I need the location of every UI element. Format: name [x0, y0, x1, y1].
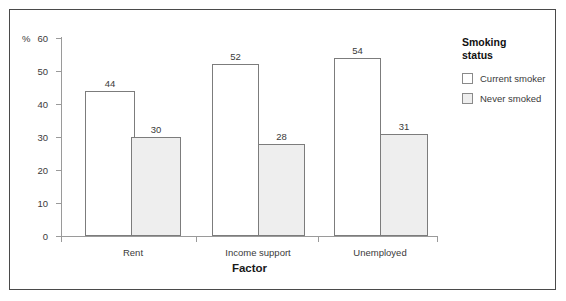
bar-value-label: 54 — [352, 45, 363, 56]
y-tick-10: 10 — [56, 203, 61, 204]
y-tick-label-20: 20 — [37, 165, 48, 176]
x-category-label-rent: Rent — [123, 247, 143, 258]
y-tick-label-10: 10 — [37, 198, 48, 209]
bar-income-support-never-smoked: 28 — [258, 144, 305, 236]
bar-value-label: 31 — [399, 121, 410, 132]
legend-swatch-icon-never-smoked — [462, 93, 473, 104]
bar-value-label: 52 — [230, 51, 241, 62]
y-axis-unit-label: % — [22, 33, 30, 44]
legend-swatch-icon-current-smoker — [462, 73, 473, 84]
legend-item-current-smoker[interactable]: Current smoker — [462, 73, 554, 84]
x-tick-group-1 — [196, 236, 197, 242]
bar-unemployed-never-smoked: 31 — [380, 134, 428, 236]
x-tick-end — [437, 236, 438, 242]
legend-item-never-smoked[interactable]: Never smoked — [462, 93, 554, 104]
legend-label-current-smoker: Current smoker — [480, 73, 545, 84]
legend-items: Current smoker Never smoked — [462, 73, 554, 104]
y-tick-40: 40 — [56, 104, 61, 105]
chart-figure: % 60 50 40 30 20 10 0 44 30 — [0, 0, 566, 301]
bar-rent-current-smoker: 44 — [85, 91, 135, 236]
x-tick-start — [61, 236, 62, 242]
y-tick-50: 50 — [56, 71, 61, 72]
legend-title-line-1: Smoking — [462, 36, 524, 49]
x-category-label-income-support: Income support — [225, 247, 290, 258]
legend-title: Smoking status — [462, 36, 524, 62]
x-axis-title: Factor — [61, 262, 438, 274]
y-tick-60: 60 — [56, 38, 61, 39]
y-tick-20: 20 — [56, 170, 61, 171]
y-tick-30: 30 — [56, 137, 61, 138]
y-tick-label-30: 30 — [37, 132, 48, 143]
legend: Smoking status Current smoker Never smok… — [462, 36, 554, 113]
y-tick-label-0: 0 — [43, 231, 48, 242]
bar-income-support-current-smoker: 52 — [212, 64, 259, 236]
x-category-label-unemployed: Unemployed — [353, 247, 406, 258]
y-tick-label-60: 60 — [37, 33, 48, 44]
legend-label-never-smoked: Never smoked — [480, 93, 541, 104]
bar-rent-never-smoked: 30 — [131, 137, 181, 236]
y-tick-label-40: 40 — [37, 99, 48, 110]
legend-title-line-2: status — [462, 49, 524, 62]
bar-value-label: 44 — [105, 78, 116, 89]
bar-unemployed-current-smoker: 54 — [334, 58, 381, 236]
x-tick-group-2 — [318, 236, 319, 242]
y-tick-label-50: 50 — [37, 66, 48, 77]
bar-value-label: 28 — [276, 131, 287, 142]
plot-area: 60 50 40 30 20 10 0 44 30 52 28 — [61, 38, 438, 236]
x-axis-line — [61, 236, 438, 237]
bar-value-label: 30 — [151, 124, 162, 135]
